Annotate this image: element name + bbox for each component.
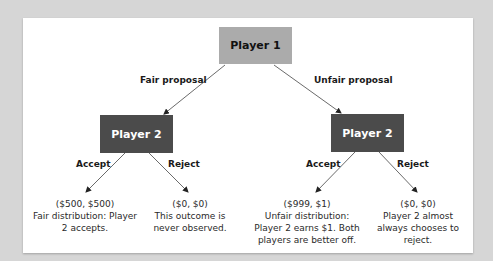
outcome-description: Fair distribution: Player 2 accepts. xyxy=(30,210,140,234)
player-2-node-fair: Player 2 xyxy=(100,115,173,153)
reject-label-unfair: Reject xyxy=(397,159,429,169)
unfair-proposal-label: Unfair proposal xyxy=(314,75,393,85)
player-2-label: Player 2 xyxy=(111,128,161,141)
player-1-label: Player 1 xyxy=(230,39,280,52)
reject-label-fair: Reject xyxy=(168,159,200,169)
payoff: ($0, $0) xyxy=(368,198,468,210)
outcome-description: This outcome is never observed. xyxy=(141,210,239,234)
edge-unfair-proposal xyxy=(274,65,341,113)
outcome-description: Player 2 almost always chooses to reject… xyxy=(368,210,468,246)
payoff: ($999, $1) xyxy=(252,198,362,210)
outcome-unfair-accept: ($999, $1) Unfair distribution: Player 2… xyxy=(252,198,362,246)
outcome-fair-accept: ($500, $500) Fair distribution: Player 2… xyxy=(30,198,140,234)
outcome-fair-reject: ($0, $0) This outcome is never observed. xyxy=(141,198,239,234)
fair-proposal-label: Fair proposal xyxy=(140,75,207,85)
payoff: ($500, $500) xyxy=(30,198,140,210)
accept-label-fair: Accept xyxy=(76,159,110,169)
edge-right-reject xyxy=(379,152,417,192)
edge-fair-proposal xyxy=(164,65,225,114)
outcome-unfair-reject: ($0, $0) Player 2 almost always chooses … xyxy=(368,198,468,246)
player-2-label: Player 2 xyxy=(342,127,392,140)
player-2-node-unfair: Player 2 xyxy=(331,114,404,152)
outcome-description: Unfair distribution: Player 2 earns $1. … xyxy=(252,210,362,246)
accept-label-unfair: Accept xyxy=(306,159,340,169)
player-1-node: Player 1 xyxy=(219,27,292,64)
payoff: ($0, $0) xyxy=(141,198,239,210)
edge-right-accept xyxy=(316,152,355,192)
